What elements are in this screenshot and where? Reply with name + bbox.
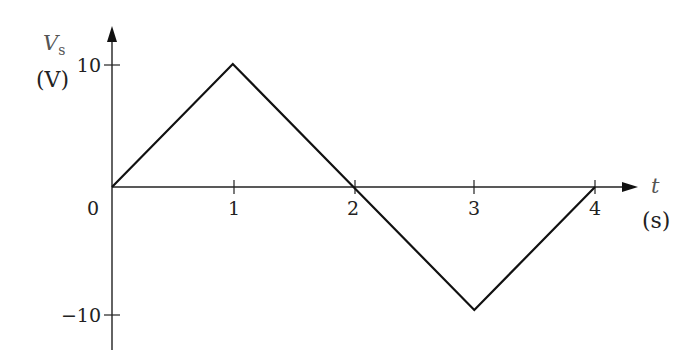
x-axis-unit: (s) [642,208,670,233]
x-axis: 0 1 2 3 4 t (s) [87,174,671,233]
y-axis: 10 −10 Vs (V) [36,26,120,350]
y-tick-label-neg10: −10 [61,304,101,326]
y-axis-unit: (V) [36,67,69,92]
x-axis-arrow-icon [622,182,638,192]
x-tick-label-2: 2 [347,197,359,219]
y-axis-label: Vs [43,31,65,58]
origin-label: 0 [87,197,99,219]
y-axis-arrow-icon [107,26,117,42]
x-tick-label-4: 4 [589,197,601,219]
x-tick-label-3: 3 [468,197,480,219]
x-tick-label-1: 1 [228,197,240,219]
x-axis-label: t [651,174,660,198]
triangle-wave-chart: 10 −10 Vs (V) 0 1 2 3 4 t (s) [0,0,695,361]
y-tick-label-10: 10 [77,54,101,76]
